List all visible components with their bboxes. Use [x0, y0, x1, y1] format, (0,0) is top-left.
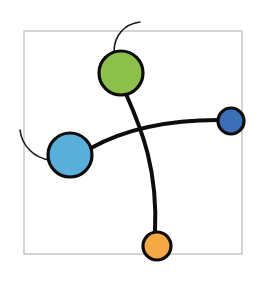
light-blue-node [48, 133, 92, 177]
orange-node [143, 232, 171, 260]
network-diagram [0, 0, 264, 282]
dark-blue-node [218, 108, 244, 134]
edge-lightblue-darkblue [91, 120, 218, 148]
edge-green-orange [126, 94, 155, 233]
tail-green [114, 22, 140, 52]
green-node [99, 51, 143, 95]
